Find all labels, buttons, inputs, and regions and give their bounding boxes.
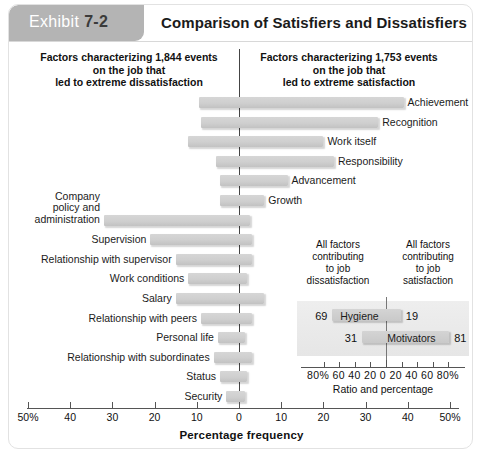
- x-axis-line: [27, 408, 459, 409]
- inset-tick: [339, 362, 340, 367]
- x-tick-label: 0: [236, 411, 242, 423]
- bar: [188, 273, 247, 284]
- bar-label: Responsibility: [338, 155, 403, 167]
- ratio-inset: All factorscontributingto jobdissatisfac…: [297, 239, 469, 389]
- x-tick: [281, 402, 282, 409]
- x-tick-label: 40: [402, 411, 414, 423]
- inset-axis-labels: 80% 60 40 20 0 20 40 60 80%: [297, 369, 469, 381]
- bar-label: Advancement: [292, 174, 356, 186]
- bar: [199, 97, 404, 108]
- inset-tick: [433, 362, 434, 367]
- x-tick-label: 30: [107, 411, 119, 423]
- bar-label: Companypolicy andadministration: [35, 191, 100, 226]
- bar: [214, 352, 252, 363]
- bar: [220, 195, 264, 206]
- inset-value-right: 19: [406, 310, 418, 322]
- inset-tick: [355, 362, 356, 367]
- x-tick: [70, 402, 71, 409]
- x-tick: [239, 402, 240, 409]
- x-tick-label: 10: [191, 411, 203, 423]
- bar-label: Salary: [142, 292, 172, 304]
- bar: [201, 117, 378, 128]
- x-tick-label: 40: [64, 411, 76, 423]
- page-title: Comparison of Satisfiers and Dissatisfie…: [161, 14, 467, 31]
- bar-label: Security: [184, 390, 222, 402]
- x-tick-label: 30: [360, 411, 372, 423]
- x-tick: [197, 402, 198, 409]
- bar-label: Work itself: [327, 135, 376, 147]
- x-tick: [155, 402, 156, 409]
- bar: [226, 391, 245, 402]
- exhibit-card: Exhibit7-2 Comparison of Satisfiers and …: [8, 4, 473, 449]
- inset-bar-label: Motivators: [387, 332, 435, 344]
- bar: [218, 332, 245, 343]
- bar: [220, 175, 288, 186]
- exhibit-number: 7-2: [84, 13, 108, 30]
- inset-value-left: 69: [315, 310, 327, 322]
- bar-label: Relationship with supervisor: [41, 253, 172, 265]
- x-tick: [408, 402, 409, 409]
- bar: [104, 215, 250, 226]
- bar: [220, 371, 247, 382]
- inset-axis-title: Ratio and percentage: [297, 383, 469, 395]
- chart-area: Factors characterizing 1,844 eventson th…: [9, 41, 473, 449]
- inset-tick: [417, 362, 418, 367]
- column-header-dissatisfaction: Factors characterizing 1,844 eventson th…: [29, 51, 229, 89]
- inset-bar-label: Hygiene: [340, 310, 379, 322]
- bar-label: Growth: [268, 194, 302, 206]
- inset-header-left: All factorscontributingto jobdissatisfac…: [299, 239, 377, 287]
- bar-label: Personal life: [156, 331, 214, 343]
- bar-label: Achievement: [408, 96, 469, 108]
- x-tick-label: 50%: [17, 411, 38, 423]
- bar: [216, 156, 334, 167]
- x-tick: [450, 402, 451, 409]
- exhibit-label: Exhibit7-2: [29, 13, 108, 31]
- bar-label: Supervision: [92, 233, 147, 245]
- inset-tick: [370, 362, 371, 367]
- bar-label: Work conditions: [110, 272, 185, 284]
- inset-tick: [402, 362, 403, 367]
- exhibit-header: Exhibit7-2 Comparison of Satisfiers and …: [9, 5, 473, 42]
- inset-axis-line: [301, 367, 465, 368]
- bar: [176, 254, 252, 265]
- bar-label: Relationship with subordinates: [67, 351, 209, 363]
- bar-label: Status: [186, 370, 216, 382]
- inset-header-right: All factorscontributingto jobsatisfactio…: [389, 239, 467, 287]
- x-tick: [112, 402, 113, 409]
- inset-value-right: 81: [454, 332, 466, 344]
- x-axis-title: Percentage frequency: [9, 429, 473, 441]
- inset-tick: [386, 360, 387, 367]
- x-tick: [323, 402, 324, 409]
- inset-value-left: 31: [345, 332, 357, 344]
- x-tick-label: 50%: [439, 411, 460, 423]
- bar-label: Recognition: [382, 116, 437, 128]
- bar: [176, 293, 265, 304]
- x-tick-label: 10: [275, 411, 287, 423]
- bar: [188, 136, 323, 147]
- exhibit-label-text: Exhibit: [29, 13, 79, 30]
- x-tick-label: 20: [149, 411, 161, 423]
- inset-tick: [448, 362, 449, 367]
- bar: [201, 313, 252, 324]
- bar: [150, 234, 251, 245]
- x-tick-label: 20: [318, 411, 330, 423]
- x-tick: [366, 402, 367, 409]
- x-tick: [28, 402, 29, 409]
- inset-tick: [324, 362, 325, 367]
- column-header-satisfaction: Factors characterizing 1,753 eventson th…: [249, 51, 449, 89]
- bar-label: Relationship with peers: [88, 312, 197, 324]
